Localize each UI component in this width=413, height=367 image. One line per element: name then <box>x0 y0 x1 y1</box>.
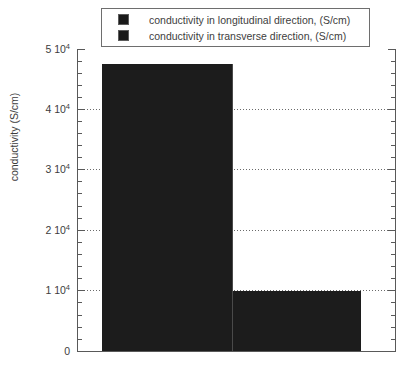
y-tick-major-0-left <box>78 351 85 352</box>
y-tick-label-10000-exponent: 4 <box>66 283 70 292</box>
legend-swatch-icon-transverse <box>118 30 129 41</box>
plot-area <box>77 49 396 351</box>
legend-entry-longitudinal: conductivity in longitudinal direction, … <box>118 12 369 28</box>
y-tick-label-20000: 2 104 <box>0 225 70 236</box>
y-tick-label-20000-mantissa: 2 10 <box>45 224 65 236</box>
y-tick-label-30000-mantissa: 3 10 <box>45 163 65 175</box>
y-tick-label-50000-exponent: 4 <box>66 42 70 51</box>
legend-entry-list: conductivity in longitudinal direction, … <box>102 9 369 46</box>
y-tick-label-10000-mantissa: 1 10 <box>45 284 65 296</box>
legend-label-transverse: conductivity in transverse direction, (S… <box>149 30 346 42</box>
y-tick-label-40000-exponent: 4 <box>66 102 70 111</box>
legend-entry-transverse: conductivity in transverse direction, (S… <box>118 28 369 44</box>
y-axis-title: conductivity (S/cm) <box>8 37 20 237</box>
y-axis-right-spine <box>395 49 396 352</box>
y-tick-major-0-right <box>388 351 395 352</box>
bar-divider <box>232 64 233 351</box>
bar-chart-figure: conductivity in longitudinal direction, … <box>0 0 413 367</box>
legend-label-longitudinal: conductivity in longitudinal direction, … <box>149 14 350 26</box>
y-tick-label-30000-exponent: 4 <box>66 162 70 171</box>
y-tick-label-50000-mantissa: 5 10 <box>45 43 65 55</box>
y-tick-label-50000: 5 104 <box>0 44 70 55</box>
bar-series <box>78 49 395 351</box>
bar-transverse <box>232 291 361 351</box>
y-tick-label-0-mantissa: 0 <box>64 345 70 357</box>
y-tick-label-40000-mantissa: 4 10 <box>45 103 65 115</box>
bar-longitudinal <box>102 64 232 351</box>
legend-swatch-icon-longitudinal <box>118 14 129 25</box>
y-tick-label-20000-exponent: 4 <box>66 223 70 232</box>
x-axis-bottom-spine <box>77 351 396 352</box>
y-tick-label-40000: 4 104 <box>0 104 70 115</box>
y-tick-label-30000: 3 104 <box>0 164 70 175</box>
chart-legend: conductivity in longitudinal direction, … <box>101 8 370 47</box>
y-tick-label-10000: 1 104 <box>0 285 70 296</box>
y-tick-label-0: 0 <box>0 346 70 357</box>
